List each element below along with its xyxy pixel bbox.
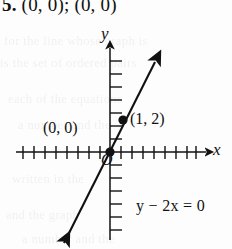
x-axis-label: x xyxy=(213,140,221,160)
origin-letter-label: O xyxy=(101,151,113,169)
point-1-2-marker xyxy=(118,115,127,124)
figure-page: for the line whose graph is is the set o… xyxy=(0,0,232,249)
equation-label: y − 2x = 0 xyxy=(136,197,205,215)
y-axis-ticks-positive xyxy=(110,61,122,139)
point-origin-label: (0, 0) xyxy=(43,119,78,137)
point-1-2-label: (1, 2) xyxy=(130,110,165,128)
y-axis-label: y xyxy=(101,24,109,44)
coordinate-graph: y x (0, 0) (1, 2) O y − 2x = 0 xyxy=(0,0,232,249)
y-axis-ticks-negative xyxy=(110,165,122,230)
